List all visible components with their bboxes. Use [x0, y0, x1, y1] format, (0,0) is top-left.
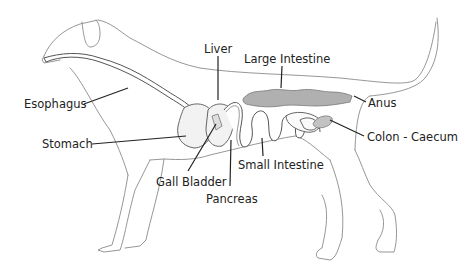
dog-digestive-diagram: Liver Large Intestine Esophagus Anus Sto… — [0, 0, 473, 270]
label-liver: Liver — [204, 42, 232, 56]
label-stomach: Stomach — [42, 137, 93, 151]
label-esophagus: Esophagus — [24, 97, 87, 111]
label-anus: Anus — [368, 96, 396, 110]
small-intestine-coils — [224, 103, 320, 147]
label-gall-bladder: Gall Bladder — [156, 175, 227, 189]
label-small-intestine: Small Intestine — [238, 158, 324, 172]
large-intestine-organ — [243, 89, 352, 106]
label-colon-caecum: Colon - Caecum — [367, 130, 458, 144]
label-large-intestine: Large Intestine — [244, 52, 330, 66]
label-pancreas: Pancreas — [206, 192, 258, 206]
